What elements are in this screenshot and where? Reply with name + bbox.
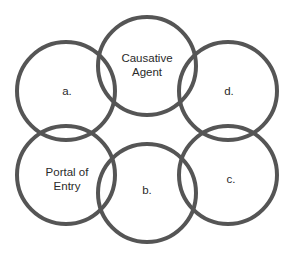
label-portal-of-entry-line2: Entry (54, 180, 81, 192)
label-b: b. (142, 184, 152, 196)
label-portal-of-entry-line1: Portal of (46, 166, 90, 178)
label-d: d. (224, 85, 234, 97)
label-causative-agent-line2: Agent (132, 66, 163, 78)
label-causative-agent-line1: Causative (121, 52, 172, 64)
label-a: a. (62, 85, 72, 97)
chain-of-infection-diagram: Causative Agent a. d. Portal of Entry b.… (0, 0, 294, 262)
label-c: c. (227, 173, 236, 185)
